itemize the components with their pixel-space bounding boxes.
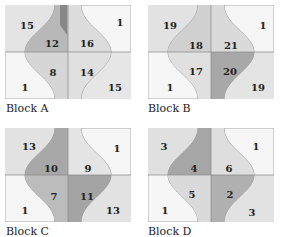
fabric-number-top-left: 19 (163, 20, 177, 31)
fabric-number-center-bottom-right: 2 (227, 189, 234, 200)
fabric-number-center-top-right: 6 (226, 163, 233, 174)
block-b-caption: Block B (148, 102, 191, 115)
fabric-number-center-top-right: 21 (224, 40, 238, 51)
fabric-number-top-right: 1 (260, 20, 267, 31)
fabric-number-top-left: 3 (161, 141, 168, 152)
fabric-number-center-top-right: 9 (85, 163, 92, 174)
fabric-number-bottom-right: 13 (106, 205, 120, 216)
fabric-number-bottom-right: 19 (251, 82, 265, 93)
fabric-number-bottom-right: 15 (108, 82, 122, 93)
fabric-number-bottom-left: 1 (167, 82, 174, 93)
block-c-caption: Block C (6, 225, 49, 237)
fabric-number-bottom-left: 1 (22, 205, 29, 216)
fabric-number-center-top-right: 16 (80, 38, 94, 49)
block-a-caption: Block A (6, 102, 49, 115)
fabric-number-bottom-left: 1 (22, 82, 29, 93)
fabric-number-top-right: 1 (253, 141, 260, 152)
fabric-number-bottom-left: 1 (162, 205, 169, 216)
fabric-number-top-left: 13 (22, 141, 36, 152)
block-a: 15 1 12 16 8 14 1 15 (5, 5, 131, 99)
fabric-number-center-bottom-right: 20 (223, 66, 237, 77)
fabric-number-center-bottom-left: 7 (51, 191, 58, 202)
fabric-number-center-top-left: 4 (191, 163, 198, 174)
block-d: 3 1 4 6 5 2 1 3 (148, 128, 274, 222)
block-b: 19 1 18 21 17 20 1 19 (148, 5, 274, 99)
fabric-number-center-bottom-right: 11 (80, 191, 94, 202)
fabric-number-center-top-left: 18 (189, 40, 203, 51)
fabric-number-center-bottom-left: 5 (189, 189, 196, 200)
fabric-number-center-bottom-right: 14 (80, 67, 94, 78)
fabric-number-center-bottom-left: 17 (189, 66, 203, 77)
block-d-caption: Block D (148, 225, 191, 237)
fabric-number-top-right: 1 (114, 143, 121, 154)
block-c: 13 1 10 9 7 11 1 13 (5, 128, 131, 222)
fabric-number-top-left: 15 (20, 20, 34, 31)
fabric-number-center-bottom-left: 8 (50, 67, 57, 78)
fabric-number-center-top-left: 10 (44, 163, 58, 174)
fabric-number-top-right: 1 (117, 17, 124, 28)
fabric-number-bottom-right: 3 (249, 207, 256, 218)
fabric-number-center-top-left: 12 (45, 38, 59, 49)
